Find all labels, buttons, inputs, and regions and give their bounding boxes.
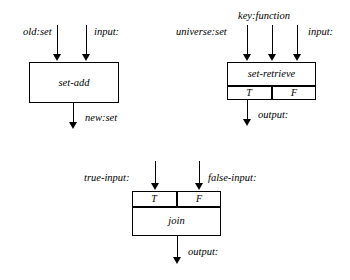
label-input-set-retrieve: input: [308,27,333,38]
label-universe-set: universe:set [176,27,227,38]
join-port-divider [132,206,221,208]
block-set-retrieve-label: set-retrieve [227,69,316,80]
label-false-input: false-input: [208,173,256,184]
diagram-canvas: old:set input: set-add new:set key:funct… [0,0,350,280]
port-true-join[interactable]: T [132,194,176,204]
block-set-add-label: set-add [29,78,119,89]
label-key-function: key:function [238,11,290,22]
label-old-set: old:set [23,27,52,38]
label-output-set-retrieve: output: [258,110,288,121]
port-false-join[interactable]: F [177,194,221,204]
label-new-set: new:set [85,113,117,124]
label-output-join: output: [188,247,218,258]
label-true-input: true-input: [84,173,130,184]
port-false-set-retrieve[interactable]: F [272,88,316,98]
port-true-set-retrieve[interactable]: T [227,88,271,98]
block-join-label: join [132,216,221,227]
label-input-set-add: input: [94,27,119,38]
